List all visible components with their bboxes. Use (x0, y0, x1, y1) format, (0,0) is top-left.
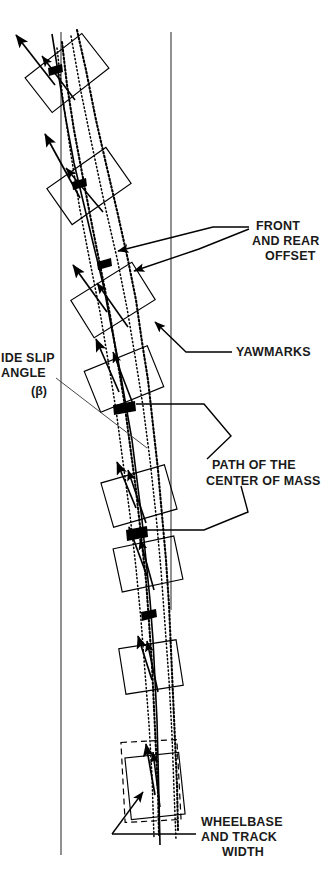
label-sideslip-line2: ANGLE (1, 366, 46, 380)
label-wheelbase-line1: WHEELBASE (201, 815, 283, 829)
label-sideslip-symbol: (β) (31, 384, 47, 398)
label-front-offset-line2: AND REAR (252, 234, 320, 248)
label-front-offset-line1: FRONT (256, 219, 300, 233)
label-yawmarks: YAWMARKS (236, 345, 311, 359)
vehicle-yaw-diagram: FRONT AND REAR OFFSET YAWMARKS IDE SLIP … (0, 0, 333, 887)
label-wheelbase-line2: AND TRACK (201, 830, 277, 844)
label-wheelbase-line3: WIDTH (222, 845, 264, 859)
label-sideslip-line1: IDE SLIP (1, 351, 55, 365)
label-path-mass-line1: PATH OF THE (212, 458, 296, 472)
label-front-offset-line3: OFFSET (265, 249, 316, 263)
diagram-canvas: FRONT AND REAR OFFSET YAWMARKS IDE SLIP … (0, 0, 333, 887)
label-path-mass-line2: CENTER OF MASS (206, 474, 321, 488)
annotation-yawmarks: YAWMARKS (236, 345, 311, 359)
